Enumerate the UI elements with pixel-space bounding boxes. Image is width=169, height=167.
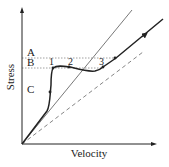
point-label-2: 2 bbox=[68, 56, 73, 67]
lower-reference-line bbox=[22, 52, 143, 144]
upper-reference-line bbox=[22, 10, 132, 144]
region-label-c: C bbox=[27, 83, 34, 95]
curve-marker-vertical bbox=[49, 91, 52, 94]
y-axis-arrow-icon bbox=[20, 7, 24, 13]
flow-curve bbox=[22, 19, 163, 144]
curve-marker-point-1 bbox=[52, 67, 55, 70]
curve-marker-upper bbox=[114, 57, 117, 60]
y-axis-label: Stress bbox=[4, 64, 16, 90]
stress-velocity-diagram: A B C 1 2 3 Stress Velocity bbox=[0, 0, 169, 167]
region-label-b: B bbox=[27, 56, 34, 68]
point-label-3: 3 bbox=[99, 56, 104, 67]
point-label-1: 1 bbox=[49, 56, 54, 67]
x-axis-arrow-icon bbox=[151, 142, 157, 146]
x-axis-label: Velocity bbox=[71, 147, 108, 159]
